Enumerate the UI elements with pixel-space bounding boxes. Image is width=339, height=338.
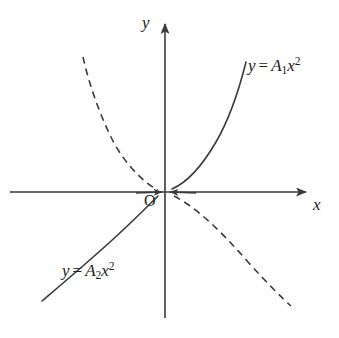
- curve-a1-lower-branch: [42, 196, 158, 301]
- curve-a1-upper-branch: [172, 62, 246, 189]
- curve-label-a1-variable: x: [287, 56, 295, 75]
- tangent-arrow-right: [170, 192, 196, 193]
- curve-label-a1: y=A1x2: [248, 57, 301, 74]
- curve-a2-lower-branch: [174, 196, 291, 306]
- x-axis-label: x: [313, 196, 321, 213]
- curve-label-a2-coefficient: A: [85, 261, 95, 280]
- curve-label-a2-equals: =: [70, 261, 86, 280]
- curve-a2-upper-branch: [83, 57, 158, 190]
- curve-label-a1-coefficient: A: [271, 56, 281, 75]
- curve-label-a1-exponent: 2: [295, 55, 301, 68]
- curve-label-a1-y: y: [248, 56, 256, 75]
- curve-label-a1-equals: =: [256, 56, 272, 75]
- curve-label-a2: y=A2x2: [62, 262, 115, 279]
- curve-label-a2-y: y: [62, 261, 70, 280]
- figure-canvas: y=A1x2 y=A2x2 y x O: [0, 0, 339, 338]
- plot-svg: [0, 0, 339, 338]
- y-axis-label: y: [142, 14, 150, 31]
- origin-label: O: [144, 193, 156, 209]
- curve-label-a2-exponent: 2: [109, 260, 115, 273]
- curve-label-a2-variable: x: [101, 261, 109, 280]
